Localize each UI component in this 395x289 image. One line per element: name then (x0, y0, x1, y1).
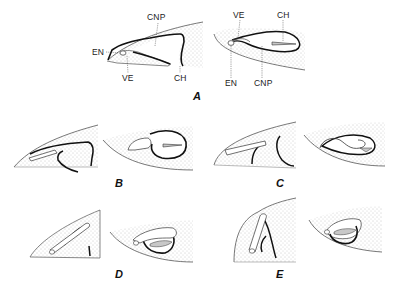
panel-d-horizontal (110, 220, 193, 262)
label-ve-a-right: VE (233, 11, 245, 20)
panel-label-d: D (115, 269, 123, 280)
panel-e-sagittal (234, 198, 296, 262)
panel-label-a: A (193, 91, 201, 102)
label-ch-a-right: CH (277, 11, 290, 20)
panel-e-horizontal (309, 206, 382, 252)
label-cnp-a-right: CNP (254, 79, 273, 88)
label-en-a-left: EN (92, 48, 104, 57)
panel-b-horizontal (103, 126, 193, 170)
label-cnp-a-left: CNP (147, 13, 166, 22)
label-ve-a-left: VE (122, 74, 134, 83)
panel-label-e: E (276, 269, 283, 280)
label-en-a-right: EN (225, 79, 237, 88)
panel-c-horizontal (304, 122, 385, 166)
panel-b-sagittal (14, 125, 98, 172)
label-ch-a-left: CH (174, 74, 187, 83)
panel-d-sagittal (30, 210, 100, 258)
figure-canvas (0, 0, 395, 289)
panel-a-horizontal (214, 28, 305, 70)
panel-label-c: C (276, 178, 284, 189)
panel-label-b: B (115, 178, 123, 189)
panel-c-sagittal (214, 122, 296, 168)
